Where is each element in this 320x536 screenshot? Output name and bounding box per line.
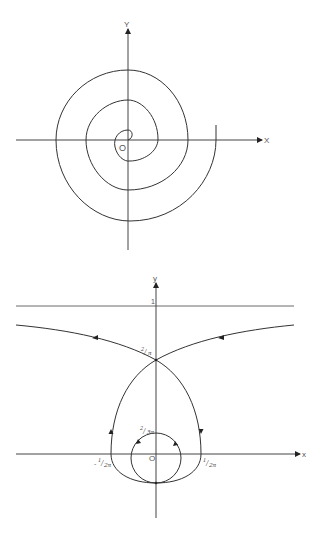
bottom-point bbox=[155, 482, 157, 484]
inner-top-label: 2 / 3π bbox=[140, 425, 155, 436]
bottom-y-label: y bbox=[153, 274, 157, 283]
svg-text:-: - bbox=[94, 460, 97, 468]
cusp-point bbox=[155, 359, 158, 362]
svg-text:3π: 3π bbox=[146, 428, 155, 436]
top-figure: Y X O bbox=[16, 20, 270, 250]
top-x-label: X bbox=[264, 136, 270, 145]
right-branch-arrow-icon bbox=[218, 335, 224, 340]
top-origin-label: O bbox=[119, 143, 126, 153]
svg-text:2π: 2π bbox=[104, 461, 112, 469]
svg-text:2π: 2π bbox=[209, 461, 217, 469]
top-y-label: Y bbox=[124, 20, 130, 29]
bottom-origin-label: O bbox=[149, 454, 155, 463]
bottom-figure: y x 1 O 2 / π 2 / 3π bbox=[16, 274, 306, 518]
diagram-canvas: Y X O y x 1 O 2 / bbox=[0, 0, 320, 536]
bottom-x-label: x bbox=[302, 450, 306, 459]
left-branch-arrow-icon bbox=[92, 335, 98, 340]
x-left-label: - 1 / 2π bbox=[94, 457, 112, 469]
asymptote-label: 1 bbox=[151, 298, 155, 305]
spiral-curve bbox=[56, 70, 216, 221]
svg-text:/: / bbox=[143, 348, 147, 357]
svg-text:π: π bbox=[148, 349, 152, 357]
left-branch-curve bbox=[16, 325, 156, 360]
right-branch-curve bbox=[156, 325, 294, 360]
svg-text:/: / bbox=[142, 427, 146, 436]
x-right-label: 1 / 2π bbox=[203, 457, 217, 469]
